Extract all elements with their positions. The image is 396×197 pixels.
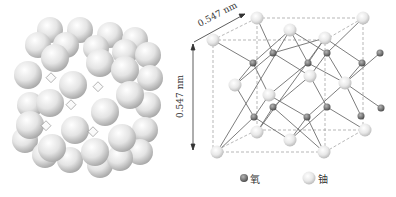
dimension-label-left: 0.547 nm xyxy=(175,75,185,118)
uranium-legend-icon xyxy=(303,172,316,185)
legend-oxygen-label: 氧 xyxy=(250,171,260,186)
oxygen-legend-icon xyxy=(240,174,248,182)
uo2-crystal-figure: 0.547 nm 0.547 nm 氧 铀 xyxy=(0,0,396,197)
figure-graphic xyxy=(0,0,396,197)
unit-cell-model xyxy=(191,12,385,185)
oxygen-atoms xyxy=(250,50,385,121)
packed-sphere-model xyxy=(12,17,163,178)
legend-uranium-label: 铀 xyxy=(318,171,328,186)
